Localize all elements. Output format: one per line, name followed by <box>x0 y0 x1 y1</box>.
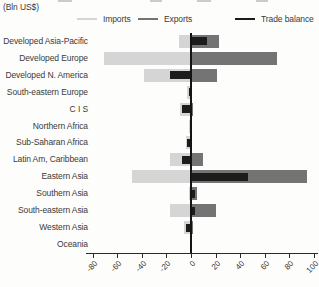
bar-imports <box>104 52 191 65</box>
legend-swatch-icon <box>235 18 255 21</box>
legend-item-label: Imports <box>103 14 131 24</box>
chart-figure: (Bln US$) ImportsExportsTrade balance De… <box>0 0 319 287</box>
x-axis-tick-label: 80 <box>271 259 296 284</box>
x-axis-tick-label: -80 <box>74 259 99 284</box>
category-label: Developed N. America <box>0 70 88 81</box>
bar-trade-balance <box>170 71 191 79</box>
bar-imports <box>170 204 191 217</box>
category-label: Western Asia <box>0 222 88 233</box>
category-label: Developed Asia-Pacific <box>0 36 88 47</box>
x-axis-tick <box>314 254 315 258</box>
x-axis-tick <box>289 254 290 258</box>
x-axis-tick-label: 100 <box>296 259 319 284</box>
axis-units-label: (Bln US$) <box>3 2 39 12</box>
legend-swatch-icon <box>138 18 158 21</box>
bar-exports <box>191 153 203 166</box>
x-axis-tick <box>142 254 143 258</box>
category-label: South-eastern Europe <box>0 87 88 98</box>
x-axis-tick-label: 60 <box>246 259 271 284</box>
bar-exports <box>191 204 216 217</box>
title-remnant-mark <box>150 0 162 2</box>
zero-baseline <box>190 33 192 253</box>
legend-item-label: Exports <box>164 14 192 24</box>
x-axis-tick <box>265 254 266 258</box>
title-remnant-mark <box>256 0 268 2</box>
x-axis-tick-label: -60 <box>99 259 124 284</box>
x-axis-tick <box>166 254 167 258</box>
x-axis-tick <box>240 254 241 258</box>
x-axis-tick <box>191 254 192 258</box>
category-label: Developed Europe <box>0 53 88 64</box>
legend-item-trade-balance: Trade balance <box>235 13 314 25</box>
bar-exports <box>191 52 277 65</box>
legend-item-imports: Imports <box>77 13 131 25</box>
category-label: Eastern Asia <box>0 171 88 182</box>
legend-swatch-icon <box>77 18 97 21</box>
category-label: Sub-Saharan Africa <box>0 137 88 148</box>
x-axis-tick-label: 20 <box>197 259 222 284</box>
category-label: Southern Asia <box>0 188 88 199</box>
x-axis-line <box>86 253 318 254</box>
bar-exports <box>191 69 217 82</box>
x-axis-tick-label: 0 <box>173 259 198 284</box>
bar-trade-balance <box>191 37 207 45</box>
category-label: Northern Africa <box>0 121 88 132</box>
x-axis-tick-label: -40 <box>123 259 148 284</box>
x-axis-tick <box>117 254 118 258</box>
category-label: C I S <box>0 104 88 115</box>
legend-item-exports: Exports <box>138 13 192 25</box>
x-axis-tick-label: 40 <box>222 259 247 284</box>
x-axis-tick <box>93 254 94 258</box>
x-axis-tick <box>216 254 217 258</box>
title-remnant-mark <box>58 0 72 2</box>
legend-item-label: Trade balance <box>261 14 314 24</box>
category-label: South-eastern Asia <box>0 205 88 216</box>
category-label: Latin Am, Caribbean <box>0 154 88 165</box>
bar-imports <box>179 35 191 48</box>
x-axis-tick-label: -20 <box>148 259 173 284</box>
title-remnant-mark <box>197 0 211 2</box>
bar-imports <box>132 170 191 183</box>
bar-trade-balance <box>191 173 248 181</box>
category-label: Oceania <box>0 239 88 250</box>
